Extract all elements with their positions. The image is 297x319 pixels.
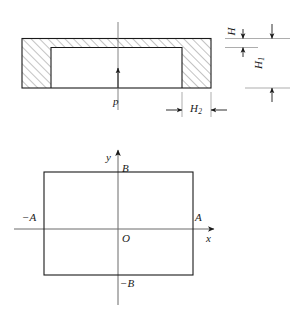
dimension-label-h1-sub: 1 [257, 57, 266, 61]
x-axis-label: x [206, 233, 211, 244]
label-b-bottom: −B [120, 278, 134, 289]
pressure-label: p [113, 96, 119, 107]
top-flange-hatch [51, 39, 182, 48]
dimension-label-h2-text: H [190, 102, 198, 114]
label-b-top: B [122, 163, 129, 174]
dimension-label-h1: H1 [253, 57, 265, 69]
left-wall-hatch [22, 39, 51, 89]
section-cavity-outline [51, 48, 182, 89]
label-a-right: A [195, 212, 202, 223]
figure-canvas [0, 0, 297, 319]
dimension-label-h1-text: H [252, 61, 264, 69]
dimension-label-h2: H2 [190, 103, 202, 115]
label-a-left: −A [22, 212, 36, 223]
origin-label: O [122, 233, 130, 244]
y-axis-label: y [106, 152, 111, 163]
right-wall-hatch [182, 39, 211, 89]
dimension-label-h2-sub: 2 [198, 107, 202, 116]
section-view-group [22, 22, 290, 117]
technical-drawing: p H H1 H2 y B −B A −A x O [0, 0, 297, 319]
dimension-label-h: H [226, 28, 237, 36]
plan-view-group [14, 150, 214, 305]
